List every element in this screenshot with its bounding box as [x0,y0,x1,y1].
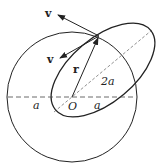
orbit-diagram: v v r 2a a O a [0,0,163,167]
label-a-right: a [94,99,101,112]
label-v-inner: v [46,53,54,66]
label-origin: O [68,100,77,113]
v-ellipse-velocity-arrow [60,36,99,58]
label-a-left: a [33,99,40,112]
ellipse-orbit [35,6,163,135]
label-r: r [73,63,79,76]
label-2a: 2a [100,75,115,88]
label-v-outer: v [44,7,52,20]
